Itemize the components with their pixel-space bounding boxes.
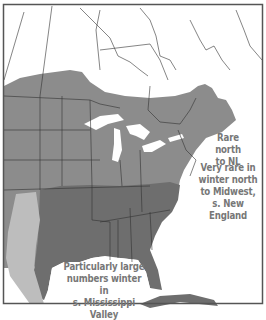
annotation-line: s. Mississippi Valley — [61, 296, 146, 320]
annotation-line: winter north — [198, 173, 257, 185]
annotation-line: Very rare in — [198, 161, 257, 173]
annotation-line: numbers winter in — [61, 272, 146, 296]
annotation-line: to Midwest, — [198, 185, 257, 197]
northern-coastlines — [80, 8, 262, 76]
annotation-mississippi: Particularly large numbers winter in s. … — [61, 260, 146, 320]
annotation-line: s. New England — [198, 197, 257, 221]
annotation-very-rare-winter: Very rare in winter north to Midwest, s.… — [198, 161, 257, 221]
annotation-line: Rare north — [203, 131, 252, 155]
annotation-line: Particularly large — [61, 260, 146, 272]
